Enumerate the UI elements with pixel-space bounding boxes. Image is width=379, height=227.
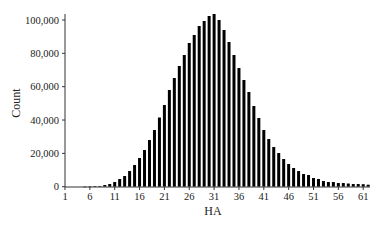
- histogram-bar: [198, 26, 201, 187]
- x-tick-label: 31: [209, 191, 220, 202]
- histogram-bar: [322, 181, 325, 187]
- x-tick-label: 61: [358, 191, 369, 202]
- histogram-bar: [228, 42, 231, 187]
- histogram-bar: [173, 78, 176, 187]
- x-axis-title: HA: [204, 204, 222, 218]
- histogram-bar: [133, 165, 136, 187]
- histogram-bar: [128, 171, 131, 187]
- histogram-bar: [312, 178, 315, 187]
- histogram-bar: [342, 183, 345, 187]
- histogram-bar: [188, 43, 191, 187]
- histogram-bar: [307, 175, 310, 187]
- histogram-bar: [143, 150, 146, 187]
- histogram-bar: [153, 130, 156, 187]
- histogram-bar: [367, 185, 370, 187]
- x-tick-label: 11: [110, 191, 120, 202]
- histogram-bar: [347, 184, 350, 187]
- histogram-bar: [337, 183, 340, 187]
- histogram-bar: [183, 55, 186, 187]
- x-tick-label: 26: [184, 191, 195, 202]
- histogram-bar: [103, 185, 106, 187]
- histogram-bar: [218, 20, 221, 187]
- y-tick-label: 40,000: [30, 115, 59, 126]
- histogram-bar: [252, 106, 255, 187]
- histogram-bar: [282, 159, 285, 187]
- histogram-bar: [193, 35, 196, 187]
- histogram-bar: [213, 14, 216, 187]
- x-tick-label: 21: [159, 191, 170, 202]
- histogram-bar: [357, 184, 360, 187]
- bar-series: [83, 14, 369, 187]
- y-axis-ticks: 020,00040,00060,00080,000100,000: [25, 15, 65, 193]
- histogram-bar: [292, 168, 295, 187]
- x-tick-label: 36: [234, 191, 245, 202]
- histogram-bar: [257, 118, 260, 187]
- y-tick-label: 60,000: [30, 81, 59, 92]
- y-tick-label: 80,000: [30, 48, 59, 59]
- y-axis-title: Count: [9, 88, 23, 118]
- histogram-bar: [113, 182, 116, 187]
- histogram-bar: [327, 182, 330, 187]
- y-tick-label: 100,000: [25, 15, 59, 26]
- x-tick-label: 56: [333, 191, 344, 202]
- x-tick-label: 1: [62, 191, 67, 202]
- histogram-bar: [232, 55, 235, 187]
- histogram-bar: [247, 92, 250, 187]
- histogram-bar: [138, 158, 141, 187]
- x-tick-label: 6: [87, 191, 92, 202]
- histogram-bar: [223, 30, 226, 187]
- y-tick-label: 0: [54, 181, 59, 192]
- histogram-bar: [302, 174, 305, 187]
- y-tick-label: 20,000: [30, 148, 59, 159]
- histogram-bar: [352, 184, 355, 187]
- x-tick-label: 46: [283, 191, 294, 202]
- histogram-bar: [148, 140, 151, 187]
- histogram-bar: [108, 184, 111, 187]
- x-tick-label: 51: [308, 191, 319, 202]
- histogram-bar: [178, 66, 181, 187]
- x-tick-label: 16: [134, 191, 145, 202]
- histogram-bar: [158, 118, 161, 187]
- histogram-bar: [118, 179, 121, 187]
- histogram-bar: [277, 153, 280, 187]
- histogram-bar: [237, 68, 240, 187]
- histogram-bar: [163, 105, 166, 187]
- x-axis-ticks: 161116212631364146515661: [62, 187, 368, 202]
- histogram-bar: [203, 21, 206, 187]
- x-tick-label: 41: [259, 191, 270, 202]
- histogram-bar: [297, 171, 300, 187]
- histogram-bar: [287, 164, 290, 187]
- histogram-chart: 020,00040,00060,00080,000100,000 1611162…: [0, 0, 379, 227]
- histogram-bar: [332, 182, 335, 187]
- histogram-bar: [267, 139, 270, 187]
- histogram-bar: [208, 16, 211, 187]
- histogram-bar: [168, 90, 171, 187]
- histogram-bar: [362, 184, 365, 187]
- histogram-bar: [272, 147, 275, 187]
- histogram-bar: [123, 176, 126, 187]
- histogram-bar: [262, 130, 265, 187]
- histogram-bar: [317, 179, 320, 187]
- histogram-bar: [242, 80, 245, 187]
